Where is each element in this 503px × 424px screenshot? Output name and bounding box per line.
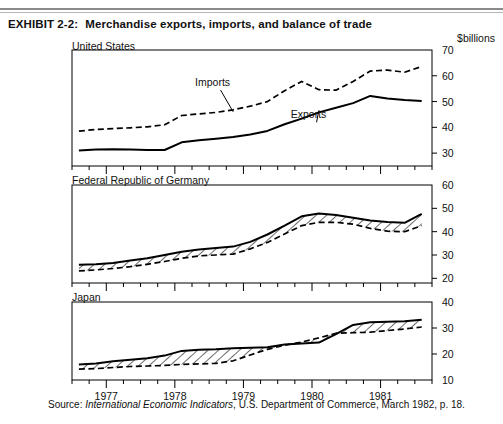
y-tick-label: 60 [442, 179, 454, 191]
y-tick-label: 40 [442, 226, 454, 238]
y-tick-label: 50 [442, 96, 454, 108]
source-publication: International Economic Indicators [85, 399, 233, 410]
y-tick-label: 70 [442, 44, 454, 56]
annotation-imports: Imports [195, 76, 230, 88]
annotation-leader [221, 90, 234, 112]
source-suffix: , U.S. Department of Commerce, March 198… [233, 399, 465, 410]
y-tick-label: 20 [442, 272, 454, 284]
chart-canvas: 3040506070ImportsExports2030405060102030… [0, 0, 503, 424]
source-prefix: Source: [48, 399, 85, 410]
y-tick-label: 30 [442, 249, 454, 261]
series-line-exports [79, 96, 422, 151]
exhibit-figure: EXHIBIT 2-2:Merchandise exports, imports… [0, 0, 503, 424]
panel-frame [72, 302, 432, 380]
panel-frame [72, 185, 432, 283]
y-tick-label: 10 [442, 374, 454, 386]
y-tick-label: 40 [442, 296, 454, 308]
y-tick-label: 30 [442, 322, 454, 334]
y-tick-label: 40 [442, 121, 454, 133]
source-note: Source: International Economic Indicator… [48, 399, 465, 410]
y-tick-label: 30 [442, 147, 454, 159]
panel-germany: 2030405060 [72, 179, 454, 291]
panel-japan: 1020304019771978197919801981 [72, 296, 454, 402]
annotation-exports: Exports [291, 108, 327, 120]
y-tick-label: 60 [442, 70, 454, 82]
series-line-exports [79, 214, 422, 265]
panel-united-states: 3040506070ImportsExports [72, 44, 454, 174]
y-tick-label: 20 [442, 348, 454, 360]
series-line-imports [79, 67, 422, 132]
y-tick-label: 50 [442, 202, 454, 214]
trade-balance-band [79, 320, 422, 369]
